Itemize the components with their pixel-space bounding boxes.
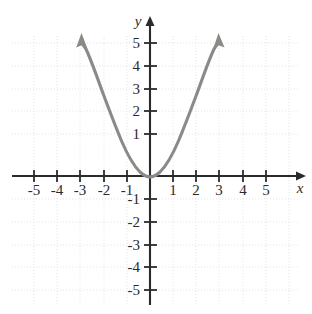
x-tick-label: 1 <box>169 182 177 198</box>
x-tick-label: 2 <box>192 182 200 198</box>
x-tick-label: 4 <box>239 182 247 198</box>
x-axis-label: x <box>296 180 304 196</box>
x-tick-label: -5 <box>28 182 41 198</box>
y-tick-label: -2 <box>128 214 141 230</box>
x-tick-label: -3 <box>74 182 87 198</box>
parabola-graph-figure: -5 -4 -3 -2 -1 1 2 3 4 5 -5 -4 -3 -2 -1 … <box>0 0 312 314</box>
y-axis-label: y <box>133 13 142 29</box>
y-tick-label: -3 <box>128 237 141 253</box>
y-tick-label: -1 <box>128 191 141 207</box>
y-tick-label: 2 <box>133 103 141 119</box>
graph-canvas: -5 -4 -3 -2 -1 1 2 3 4 5 -5 -4 -3 -2 -1 … <box>0 0 312 314</box>
y-tick-label: 3 <box>133 81 141 97</box>
x-tick-label: -4 <box>51 182 64 198</box>
x-tick-label: 5 <box>262 182 270 198</box>
x-tick-label: -2 <box>98 182 111 198</box>
y-tick-label: 1 <box>133 126 141 142</box>
x-tick-label: 3 <box>215 182 223 198</box>
y-tick-label: 4 <box>133 58 141 74</box>
y-tick-label: -4 <box>128 259 141 275</box>
y-tick-label: -5 <box>128 282 141 298</box>
y-tick-label: 5 <box>133 35 141 51</box>
